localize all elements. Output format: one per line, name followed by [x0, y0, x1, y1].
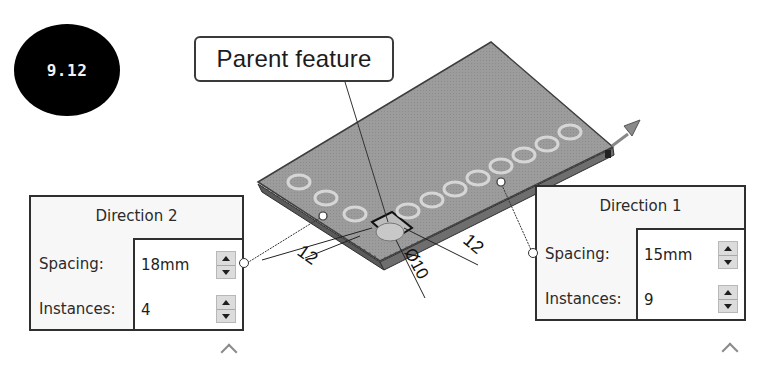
spin-up-button[interactable]	[719, 286, 737, 299]
direction2-instances-spinner[interactable]	[216, 295, 236, 323]
spin-down-button[interactable]	[217, 265, 235, 279]
arrow-down-icon	[724, 260, 732, 265]
spin-up-button[interactable]	[719, 242, 737, 255]
direction1-spacing-input[interactable]: 15mm	[644, 246, 692, 264]
spin-down-button[interactable]	[217, 309, 235, 323]
direction2-fields: 18mm 4	[133, 238, 244, 331]
spin-down-button[interactable]	[719, 299, 737, 313]
direction2-spacing-spinner[interactable]	[216, 251, 236, 279]
direction2-spacing-input[interactable]: 18mm	[141, 256, 189, 274]
direction1-title: Direction 1	[537, 197, 744, 215]
direction2-panel: Direction 2 Spacing: Instances: 18mm 4	[29, 195, 244, 331]
direction2-anchor-handle[interactable]	[319, 212, 327, 220]
direction1-anchor-handle[interactable]	[497, 178, 505, 186]
dimension-diameter-label: Ø10	[400, 245, 432, 282]
direction1-instances-label: Instances:	[545, 290, 622, 308]
direction2-connector-dot[interactable]	[239, 258, 249, 268]
direction2-instances-input[interactable]: 4	[141, 301, 151, 319]
direction1-instances-spinner[interactable]	[718, 285, 738, 313]
arrow-down-icon	[222, 314, 230, 319]
direction1-panel: Direction 1 Spacing: Instances: 15mm 9	[535, 185, 746, 321]
arrow-up-icon	[724, 246, 732, 251]
direction1-spacing-spinner[interactable]	[718, 241, 738, 269]
direction2-instances-label: Instances:	[39, 300, 116, 318]
direction1-spacing-label: Spacing:	[545, 245, 610, 263]
arrow-down-icon	[724, 304, 732, 309]
dimension-right-label: 12	[459, 230, 487, 258]
arrow-up-icon	[724, 290, 732, 295]
spin-down-button[interactable]	[719, 255, 737, 269]
direction1-connector-dot[interactable]	[528, 248, 538, 258]
arrow-up-icon	[222, 256, 230, 261]
dimension-left-label: 12	[294, 241, 322, 269]
parent-feature-callout: Parent feature	[194, 36, 394, 82]
spin-up-button[interactable]	[217, 252, 235, 265]
spin-up-button[interactable]	[217, 296, 235, 309]
arrow-down-icon	[222, 270, 230, 275]
arrow-up-icon	[222, 300, 230, 305]
direction2-spacing-label: Spacing:	[39, 255, 104, 273]
parent-feature-label: Parent feature	[217, 45, 372, 73]
direction1-fields: 15mm 9	[636, 228, 746, 321]
direction2-title: Direction 2	[31, 207, 242, 225]
direction-arrow-icon[interactable]	[605, 120, 640, 158]
direction1-instances-input[interactable]: 9	[644, 291, 654, 309]
